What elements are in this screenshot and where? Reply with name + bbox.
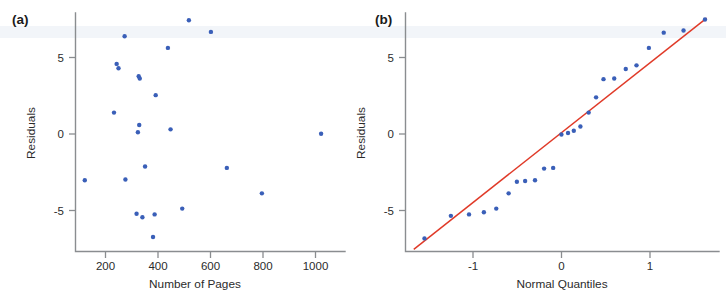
data-point <box>542 166 546 170</box>
data-point <box>594 95 598 99</box>
data-point <box>260 191 264 195</box>
x-tick-label-neg1: -1 <box>468 260 478 272</box>
panel-b-label: (b) <box>375 12 392 27</box>
data-point <box>116 66 120 70</box>
residual-diagnostic-figure: (a) 5 0 -5 200 400 600 <box>0 0 726 293</box>
data-point <box>122 34 126 38</box>
data-point <box>662 30 666 34</box>
y-tick-label-5: 5 <box>58 52 64 64</box>
data-point <box>449 214 453 218</box>
data-point <box>533 178 537 182</box>
panel-a-ylabel: Residuals <box>24 107 38 159</box>
data-point <box>136 130 140 134</box>
data-point <box>140 215 144 219</box>
data-point <box>138 76 142 80</box>
x-tick-label-1000: 1000 <box>303 260 329 272</box>
data-point <box>506 191 510 195</box>
data-point <box>114 62 118 66</box>
x-tick-label-800: 800 <box>253 260 272 272</box>
panel-a-xlabel: Number of Pages <box>149 277 241 291</box>
data-point <box>319 132 323 136</box>
data-point <box>143 164 147 168</box>
y-tick-label-neg5: -5 <box>384 205 394 217</box>
panel-b-xlabel: Normal Quantiles <box>516 277 607 291</box>
data-point <box>137 123 141 127</box>
data-point <box>559 132 563 136</box>
x-tick-label-400: 400 <box>148 260 167 272</box>
data-point <box>601 77 605 81</box>
data-point <box>703 17 707 21</box>
data-point <box>153 93 157 97</box>
y-tick-label-0: 0 <box>58 128 64 140</box>
data-point <box>151 235 155 239</box>
data-point <box>83 178 87 182</box>
y-tick-label-neg5: -5 <box>54 205 64 217</box>
data-point <box>572 129 576 133</box>
scan-band-artifact <box>0 26 726 38</box>
data-point <box>647 46 651 50</box>
x-tick-label-1: 1 <box>647 260 653 272</box>
x-tick-label-600: 600 <box>201 260 220 272</box>
data-point <box>515 180 519 184</box>
data-point <box>482 210 486 214</box>
data-point <box>634 63 638 67</box>
data-point <box>494 206 498 210</box>
data-point <box>681 28 685 32</box>
data-point <box>168 127 172 131</box>
y-tick-label-0: 0 <box>388 128 394 140</box>
panel-b-ylabel: Residuals <box>354 107 368 159</box>
data-point <box>586 110 590 114</box>
data-point <box>123 177 127 181</box>
data-point <box>422 236 426 240</box>
y-tick-label-5: 5 <box>388 52 394 64</box>
data-point <box>152 212 156 216</box>
data-point <box>180 206 184 210</box>
data-point <box>209 30 213 34</box>
x-tick-label-0: 0 <box>558 260 564 272</box>
data-point <box>624 67 628 71</box>
data-point <box>166 46 170 50</box>
data-point <box>225 166 229 170</box>
data-point <box>187 18 191 22</box>
data-point <box>134 211 138 215</box>
panel-a-label: (a) <box>12 12 29 27</box>
data-point <box>523 179 527 183</box>
data-point <box>551 166 555 170</box>
data-point <box>566 131 570 135</box>
data-point <box>578 124 582 128</box>
data-point <box>467 212 471 216</box>
data-point <box>612 76 616 80</box>
data-point <box>112 110 116 114</box>
x-tick-label-200: 200 <box>96 260 115 272</box>
